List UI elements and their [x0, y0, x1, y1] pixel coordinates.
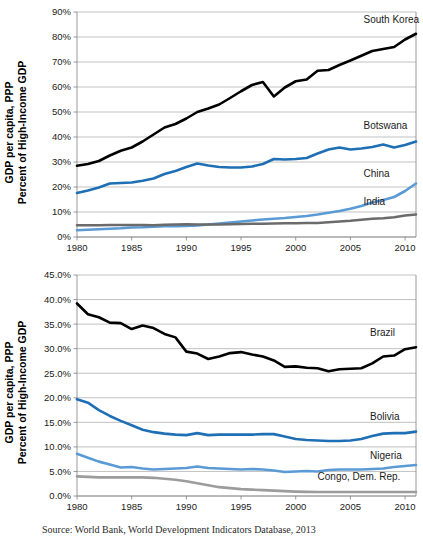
y-tick-label: 80%	[52, 31, 72, 42]
figure-container: GDP per capita, PPP Percent of High-Inco…	[0, 0, 423, 537]
y-tick-label: 90%	[52, 6, 72, 17]
x-tick-label: 1985	[121, 501, 142, 512]
series-label-bolivia: Bolivia	[370, 411, 400, 422]
y-tick-label: 15.0%	[44, 417, 71, 428]
y-tick-label: 10%	[52, 206, 72, 217]
x-tick-label: 2000	[285, 242, 306, 253]
series-label-botswana: Botswana	[364, 120, 408, 131]
series-line-brazil	[77, 303, 416, 371]
source-note: Source: World Bank, World Development In…	[42, 524, 423, 537]
series-label-nigeria: Nigeria	[370, 450, 402, 461]
series-line-nigeria	[77, 454, 416, 472]
x-tick-label: 2000	[285, 501, 306, 512]
y-tick-label: 0.0%	[49, 490, 71, 501]
series-label-south-korea: South Korea	[364, 14, 420, 25]
x-tick-label: 2005	[340, 501, 361, 512]
y-tick-label: 0%	[57, 231, 71, 242]
x-tick-label: 1980	[66, 242, 87, 253]
y-tick-label: 40.0%	[44, 294, 71, 305]
chart-bottom-plot: 0.0%5.0%10.0%15.0%20.0%25.0%30.0%35.0%40…	[0, 265, 423, 520]
y-tick-label: 20.0%	[44, 392, 71, 403]
y-tick-label: 25.0%	[44, 368, 71, 379]
y-tick-label: 30.0%	[44, 343, 71, 354]
series-line-bolivia	[77, 399, 416, 441]
chart-top: GDP per capita, PPP Percent of High-Inco…	[0, 0, 423, 265]
x-tick-label: 2005	[340, 242, 361, 253]
y-tick-label: 50%	[52, 106, 72, 117]
y-tick-label: 10.0%	[44, 441, 71, 452]
y-tick-label: 5.0%	[49, 466, 71, 477]
x-tick-label: 1985	[121, 242, 142, 253]
series-label-india: India	[364, 196, 386, 207]
x-tick-label: 2010	[394, 242, 415, 253]
x-tick-label: 2010	[394, 501, 415, 512]
y-tick-label: 35.0%	[44, 319, 71, 330]
y-tick-label: 40%	[52, 131, 72, 142]
series-label-congo-dem-rep: Congo, Dem. Rep.	[318, 471, 401, 482]
series-label-brazil: Brazil	[370, 327, 395, 338]
y-tick-label: 45.0%	[44, 269, 71, 280]
series-line-south-korea	[77, 34, 416, 166]
y-tick-label: 70%	[52, 56, 72, 67]
chart-bottom: GDP per capita, PPP Percent of High-Inco…	[0, 265, 423, 520]
x-tick-label: 1990	[176, 501, 197, 512]
y-tick-label: 20%	[52, 181, 72, 192]
y-tick-label: 60%	[52, 81, 72, 92]
x-tick-label: 1995	[230, 242, 251, 253]
x-tick-label: 1995	[230, 501, 251, 512]
chart-top-plot: 0%10%20%30%40%50%60%70%80%90%19801985199…	[0, 0, 423, 265]
x-tick-label: 1980	[66, 501, 87, 512]
y-tick-label: 30%	[52, 156, 72, 167]
series-label-china: China	[364, 168, 391, 179]
x-tick-label: 1990	[176, 242, 197, 253]
